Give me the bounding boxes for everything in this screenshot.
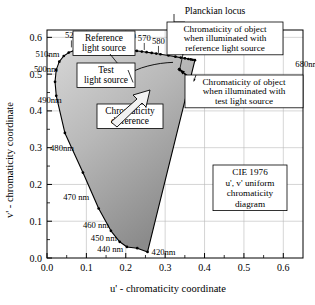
- x-tick-label: 0.0: [41, 262, 54, 273]
- test-light-source-label-line: light source: [84, 75, 128, 85]
- y-axis-title: v' - chromaticity coordinate: [4, 102, 15, 218]
- object-reference-label: Chromaticity of objectwhen illuminated w…: [167, 22, 283, 55]
- object-reference-label-line: reference light source: [185, 43, 265, 53]
- spectral-locus-point: [110, 229, 113, 232]
- x-tick-label: 0.6: [277, 262, 290, 273]
- spectral-locus-point: [67, 51, 70, 54]
- spectral-locus-point: [126, 246, 129, 249]
- spectral-locus-point: [194, 59, 197, 62]
- x-axis-title: u' - chromaticity coordinate: [110, 283, 226, 294]
- spectral-locus-point: [140, 50, 143, 53]
- wavelength-label: 570: [138, 33, 151, 43]
- spectral-locus-point: [118, 240, 121, 243]
- object-test-label-line: Chromaticity of object: [202, 77, 286, 87]
- cie-caption-box-line: diagram: [235, 199, 265, 209]
- spectral-locus-point: [155, 52, 158, 55]
- spectral-locus-point: [187, 58, 190, 61]
- wavelength-label: 490nm: [38, 95, 62, 105]
- spectral-locus-point: [97, 207, 100, 210]
- object-test-label: Chromaticity of objectwhen illuminated w…: [185, 75, 303, 108]
- planckian-locus-label: Planckian locus: [171, 4, 259, 18]
- spectral-locus-point: [159, 53, 162, 56]
- spectral-locus-point: [174, 55, 177, 58]
- reference-light-source-label: Referencelight source: [73, 31, 135, 55]
- y-tick-label: 0.0: [30, 253, 43, 264]
- test-light-source-label-line: Test: [98, 65, 114, 75]
- spectral-locus-point: [191, 58, 194, 61]
- wavelength-label: 500nm: [34, 64, 58, 74]
- y-tick-label: 0.2: [30, 179, 43, 190]
- spectral-locus-point: [54, 80, 57, 83]
- spectral-locus-point: [82, 171, 85, 174]
- x-tick-label: 0.5: [238, 262, 251, 273]
- spectral-locus-point: [150, 52, 153, 55]
- object-reference-label-line: Chromaticity of object: [183, 24, 267, 34]
- wavelength-label: 480nm: [50, 143, 74, 153]
- object-test-label-line: test light source: [215, 96, 273, 106]
- wavelength-label: 510nm: [35, 49, 59, 59]
- wavelength-label: 440 nm: [97, 244, 123, 254]
- x-tick-label: 0.4: [198, 262, 211, 273]
- x-tick-label: 0.2: [120, 262, 133, 273]
- object-reference-label-line: when illuminated with: [184, 33, 267, 43]
- wavelength-label: 580: [152, 36, 165, 46]
- reference-light-source-label-line: light source: [82, 43, 126, 53]
- cie-caption-box-line: chromaticity: [227, 188, 274, 198]
- y-tick-label: 0.4: [30, 105, 43, 116]
- planckian-locus-label-line: Planckian locus: [185, 5, 246, 16]
- y-tick-label: 0.6: [30, 32, 43, 43]
- reference-light-source-label-line: Reference: [85, 33, 123, 43]
- test-light-source-label: Testlight source: [77, 63, 135, 87]
- x-tick-label: 0.1: [80, 262, 93, 273]
- cie-1976-uv-chromaticity-plot: 0.00.10.20.30.40.50.60.00.10.20.30.40.50…: [0, 0, 315, 305]
- spectral-locus-point: [146, 251, 149, 254]
- spectral-locus-point: [184, 57, 187, 60]
- spectral-locus-point: [58, 60, 61, 63]
- wavelength-label: 470 nm: [63, 192, 89, 202]
- wavelength-label: 460 nm: [83, 220, 109, 230]
- wavelength-label: 680nm: [295, 59, 315, 69]
- spectral-locus-point: [64, 132, 67, 135]
- y-tick-label: 0.3: [30, 142, 43, 153]
- chromaticity-diagram-figure: 0.00.10.20.30.40.50.60.00.10.20.30.40.50…: [0, 0, 315, 305]
- spectral-locus-point: [145, 51, 148, 54]
- cie-caption-box-line: CIE 1976: [232, 167, 268, 177]
- spectral-locus-point: [136, 247, 139, 250]
- cie-caption-box: CIE 1976u', v' uniformchromaticitydiagra…: [213, 165, 287, 211]
- wavelength-label: 450 nm: [91, 233, 117, 243]
- wavelength-label: 420nm: [152, 247, 176, 257]
- y-tick-label: 0.1: [30, 216, 43, 227]
- cie-caption-box-line: u', v' uniform: [226, 178, 275, 188]
- x-tick-label: 0.3: [159, 262, 172, 273]
- object-test-label-line: when illuminated with: [203, 86, 286, 96]
- spectral-locus-point: [135, 50, 138, 53]
- spectral-locus-point: [62, 55, 65, 58]
